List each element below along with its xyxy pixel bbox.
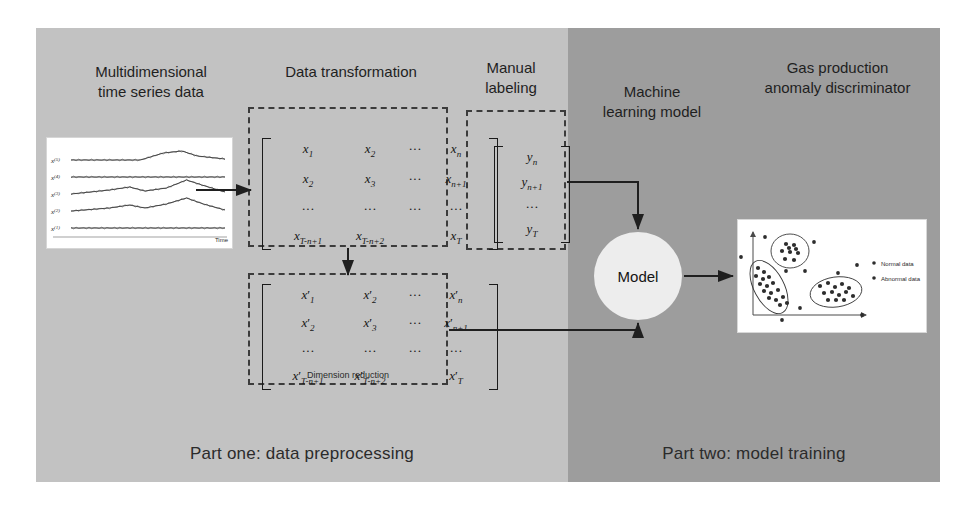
abnormal-point	[762, 289, 766, 293]
matrix-cell: ···	[277, 202, 339, 216]
model-node-label: Model	[618, 268, 659, 285]
matrix-cell: xT-n+1	[277, 229, 339, 246]
abnormal-point	[792, 258, 796, 262]
diagram-canvas: Part one: data preprocessing Part two: m…	[0, 0, 975, 507]
heading-machine-learning-model: Machine learning model	[578, 82, 726, 122]
abnormal-point	[833, 285, 837, 289]
abnormal-point	[758, 282, 762, 286]
abnormal-point	[754, 274, 758, 278]
abnormal-point	[842, 298, 846, 302]
abnormal-point	[771, 281, 775, 285]
heading-manual-labeling: Manual labeling	[456, 58, 566, 98]
abnormal-point	[783, 257, 787, 261]
matrix-cell: ···	[401, 316, 429, 333]
normal-point	[798, 306, 802, 310]
series-label: x(1)	[50, 225, 60, 234]
matrix-cell: yn+1	[509, 175, 555, 192]
normal-point	[855, 263, 859, 267]
matrix-cell: x1	[277, 142, 339, 159]
panel-part-two-caption: Part two: model training	[568, 444, 940, 464]
heading-time-series: Multidimensional time series data	[46, 62, 256, 102]
matrix-cell: x′2	[339, 288, 401, 305]
label-vector: ynyn+1···yT	[494, 146, 570, 243]
matrix-cell: xT	[429, 229, 483, 246]
panel-part-one-caption: Part one: data preprocessing	[36, 444, 568, 464]
time-series-plot: x(5)x(4)x(3)x(2)x(1) Time	[46, 137, 233, 249]
time-axis-label: Time	[215, 237, 229, 243]
abnormal-point	[788, 250, 792, 254]
matrix-cell: ···	[339, 202, 401, 216]
normal-point	[836, 271, 840, 275]
legend-label: Normal data	[881, 261, 914, 267]
abnormal-point	[762, 270, 766, 274]
matrix-cell: ···	[401, 202, 429, 216]
matrix-cell	[401, 229, 429, 246]
matrix-cell: ···	[429, 344, 483, 358]
bracket-right-icon	[489, 284, 498, 390]
legend-marker-icon	[872, 276, 876, 280]
matrix-cell: yT	[509, 222, 555, 239]
abnormal-point	[774, 298, 778, 302]
matrix-cell: x′1	[277, 288, 339, 305]
result-scatter-plot: Normal dataAbnormal data	[737, 219, 927, 333]
matrix-cell: x2	[339, 142, 401, 159]
matrix-cell: ···	[509, 200, 555, 214]
abnormal-point	[837, 293, 841, 297]
abnormal-point	[756, 266, 760, 270]
matrix-cell: ···	[401, 344, 429, 358]
series-label: x(4)	[50, 174, 60, 183]
heading-data-transformation: Data transformation	[252, 62, 450, 82]
abnormal-point	[787, 246, 791, 250]
matrix-cell: x2	[277, 172, 339, 189]
abnormal-point	[780, 249, 784, 253]
series-trace	[71, 151, 225, 160]
matrix-cell: x3	[339, 172, 401, 189]
model-node[interactable]: Model	[594, 232, 682, 320]
bracket-right-icon	[561, 146, 570, 243]
abnormal-point	[851, 294, 855, 298]
abnormal-point	[847, 286, 851, 290]
abnormal-point	[830, 290, 834, 294]
dimension-reduction-caption: Dimension reduction	[248, 370, 448, 380]
series-noise	[71, 179, 225, 195]
heading-gas-production-anomaly-discriminator: Gas production anomaly discriminator	[730, 58, 945, 98]
abnormal-point	[769, 291, 773, 295]
bracket-left-icon	[494, 146, 503, 243]
normal-point	[780, 318, 784, 322]
matrix-cell: ···	[429, 202, 483, 216]
matrix-cell: ···	[401, 288, 429, 305]
matrix-cell: x′2	[277, 316, 339, 333]
normal-point	[739, 255, 743, 259]
matrix-cell: x′3	[339, 316, 401, 333]
matrix-cell: ···	[277, 344, 339, 358]
result-scatter-svg: Normal dataAbnormal data	[738, 220, 926, 332]
abnormal-point	[776, 288, 780, 292]
normal-point	[784, 269, 788, 273]
matrix-cell: x′n+1	[429, 316, 483, 333]
abnormal-point	[822, 291, 826, 295]
abnormal-point	[778, 303, 782, 307]
matrix-raw: x1x2···xnx2x3···xn+1············xT-n+1xT…	[262, 138, 498, 250]
matrix-cell: ···	[401, 142, 429, 159]
abnormal-point	[792, 243, 796, 247]
abnormal-point	[767, 275, 771, 279]
legend-marker-icon	[872, 261, 876, 265]
abnormal-point	[826, 281, 830, 285]
normal-point	[763, 235, 767, 239]
series-trace	[71, 180, 225, 194]
abnormal-point	[826, 298, 830, 302]
abnormal-point	[767, 296, 771, 300]
abnormal-point	[784, 242, 788, 246]
abnormal-point	[781, 295, 785, 299]
abnormal-point	[765, 284, 769, 288]
series-noise	[71, 150, 225, 161]
abnormal-point	[818, 284, 822, 288]
matrix-cell: xn+1	[429, 172, 483, 189]
series-label: x(3)	[50, 191, 60, 200]
matrix-cell: ···	[401, 172, 429, 189]
abnormal-point	[840, 282, 844, 286]
matrix-cell: ···	[339, 344, 401, 358]
matrix-cell: xT-n+2	[339, 229, 401, 246]
abnormal-point	[796, 251, 800, 255]
normal-point	[803, 269, 807, 273]
